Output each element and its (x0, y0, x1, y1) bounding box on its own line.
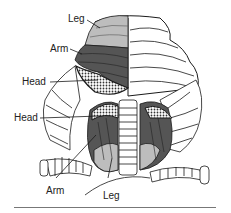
upper-leg-region (85, 16, 128, 48)
divider-rule (14, 207, 216, 208)
label-upper-head: Head (22, 77, 46, 87)
label-upper-leg: Leg (68, 14, 85, 24)
anterior-lobe (75, 16, 198, 96)
posterior-left-map (87, 102, 118, 172)
label-lower-head: Head (14, 113, 38, 123)
posterior-right-map (140, 102, 172, 170)
vermis (119, 100, 137, 175)
label-lower-leg: Leg (103, 191, 120, 201)
cerebellum-diagram (0, 0, 231, 213)
label-upper-arm: Arm (50, 44, 68, 54)
label-lower-arm: Arm (46, 186, 64, 196)
